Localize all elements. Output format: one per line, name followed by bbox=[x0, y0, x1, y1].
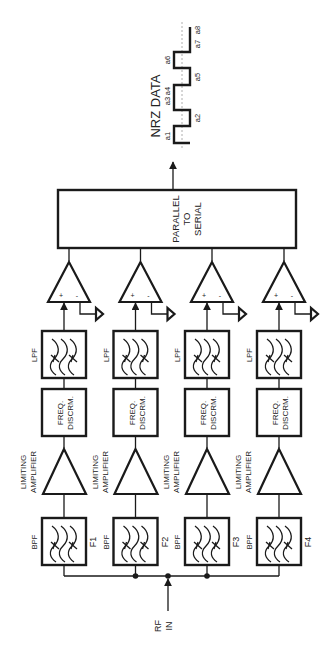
lpf-4 bbox=[257, 331, 301, 378]
ground-icon bbox=[239, 308, 246, 320]
bpf-label-1: BPF bbox=[30, 534, 39, 549]
lpf-label-3: LPF bbox=[173, 348, 182, 362]
lpf-1 bbox=[42, 331, 86, 378]
freq-label-f4: F4 bbox=[303, 537, 313, 548]
bit-label-a8: a8 bbox=[193, 26, 202, 34]
bit-label-a7: a7 bbox=[193, 40, 202, 48]
amp-label-line1-3: LIMITING bbox=[162, 455, 171, 490]
parallel-to-serial-block: PARALLEL TO SERIAL bbox=[58, 190, 296, 248]
ground-icon bbox=[168, 308, 175, 320]
freq-label-f1: F1 bbox=[88, 537, 98, 548]
bpf-1 bbox=[42, 518, 86, 565]
limiting-amplifier-1 bbox=[43, 449, 86, 494]
amp-label-line2-2: AMPLIFIER bbox=[101, 451, 110, 493]
channel-4: + - LPF FREQ. DISCRM. LIMITING AMPLIFIER… bbox=[234, 248, 318, 576]
junction-dot bbox=[133, 573, 139, 579]
comparator-plus-1: + bbox=[59, 292, 63, 299]
limiting-amplifier-3 bbox=[186, 449, 229, 494]
channel-2: + - LPF FREQ. DISCRM. LIMITING AMPLIFIER… bbox=[91, 248, 175, 576]
disc-label-line1-1: FREQ. bbox=[56, 401, 65, 425]
bit-label-a6: a6 bbox=[163, 56, 172, 64]
ground-icon bbox=[311, 308, 318, 320]
amp-label-line1-2: LIMITING bbox=[91, 455, 100, 490]
lpf-2 bbox=[114, 331, 158, 378]
comparator-plus-4: + bbox=[274, 292, 278, 299]
serializer-label-line1: PARALLEL bbox=[170, 195, 181, 242]
lpf-label-2: LPF bbox=[102, 348, 111, 362]
limiting-amplifier-2 bbox=[115, 449, 158, 494]
serializer-label-line3: SERIAL bbox=[192, 202, 203, 236]
comparator-1 bbox=[48, 262, 90, 302]
bit-label-a4: a4 bbox=[163, 87, 172, 95]
nrz-data-label: NRZ DATA bbox=[148, 74, 163, 137]
lpf-label-4: LPF bbox=[245, 348, 254, 362]
disc-label-line1-4: FREQ. bbox=[271, 401, 280, 425]
disc-label-line2-4: DISCRM. bbox=[281, 396, 290, 430]
bpf-label-2: BPF bbox=[102, 534, 111, 549]
junction-dot bbox=[204, 573, 210, 579]
limiting-amplifier-4 bbox=[258, 449, 301, 494]
bpf-2 bbox=[114, 518, 158, 565]
channel-1: + - LPF FREQ. DISCRM. LIMITING AMPLIFIER… bbox=[19, 248, 103, 576]
disc-label-line1-2: FREQ. bbox=[128, 401, 137, 425]
freq-label-f3: F3 bbox=[231, 537, 241, 548]
bpf-4 bbox=[257, 518, 301, 565]
bit-label-a1: a1 bbox=[163, 132, 172, 140]
junction-dot bbox=[165, 573, 171, 579]
nrz-waveform-trace bbox=[174, 27, 190, 143]
rf-in-label-line2: IN bbox=[164, 622, 174, 631]
amp-label-line2-4: AMPLIFIER bbox=[244, 451, 253, 493]
receiver-block-diagram: NRZ DATA a1 a2 a3 a4 a5 a6 a7 a8 PARALLE… bbox=[0, 0, 333, 651]
lpf-label-1: LPF bbox=[30, 348, 39, 362]
ground-icon bbox=[96, 308, 103, 320]
disc-label-line2-3: DISCRM. bbox=[209, 396, 218, 430]
bit-label-a2: a2 bbox=[193, 114, 202, 122]
serializer-label-line2: TO bbox=[181, 212, 192, 225]
channel-3: + - LPF FREQ. DISCRM. LIMITING AMPLIFIER… bbox=[162, 248, 246, 576]
amp-label-line2-3: AMPLIFIER bbox=[172, 451, 181, 493]
comparator-4 bbox=[263, 262, 305, 302]
rf-in-label-line1: RF bbox=[153, 620, 163, 632]
lpf-3 bbox=[185, 331, 229, 378]
bit-label-a5: a5 bbox=[193, 73, 202, 81]
bpf-label-4: BPF bbox=[245, 534, 254, 549]
bpf-3 bbox=[185, 518, 229, 565]
bpf-label-3: BPF bbox=[173, 534, 182, 549]
comparator-2 bbox=[120, 262, 162, 302]
disc-label-line1-3: FREQ. bbox=[199, 401, 208, 425]
disc-label-line2-1: DISCRM. bbox=[66, 396, 75, 430]
input-bus: RF IN bbox=[64, 573, 279, 632]
nrz-data-waveform: NRZ DATA a1 a2 a3 a4 a5 a6 a7 a8 bbox=[148, 22, 202, 150]
bit-label-a3: a3 bbox=[163, 97, 172, 105]
comparator-plus-2: + bbox=[130, 292, 134, 299]
amp-label-line1-1: LIMITING bbox=[19, 455, 28, 490]
amp-label-line2-1: AMPLIFIER bbox=[29, 451, 38, 493]
comparator-plus-3: + bbox=[202, 292, 206, 299]
comparator-3 bbox=[191, 262, 233, 302]
amp-label-line1-4: LIMITING bbox=[234, 455, 243, 490]
freq-label-f2: F2 bbox=[160, 537, 170, 548]
disc-label-line2-2: DISCRM. bbox=[138, 396, 147, 430]
